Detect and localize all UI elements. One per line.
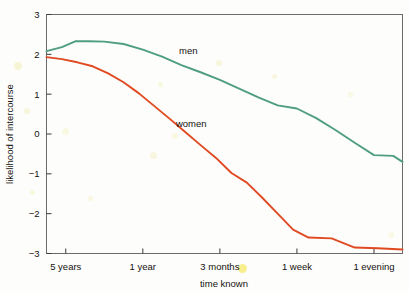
x-tick-label: 5 years <box>50 261 81 272</box>
series-line-men <box>47 41 403 162</box>
annotation-layer: menwomen <box>175 45 207 129</box>
x-tick-label: 3 months <box>200 261 239 272</box>
x-axis: 5 years1 year3 months1 week1 evening <box>50 249 394 272</box>
series-annotation-men: men <box>179 45 197 56</box>
series-line-women <box>47 57 403 249</box>
plot-frame <box>47 15 403 254</box>
y-tick-label: 3 <box>34 9 39 20</box>
chart-root: 3210−1−2−3 5 years1 year3 months1 week1 … <box>0 0 409 293</box>
y-tick-label: 0 <box>34 128 39 139</box>
series-layer <box>47 41 403 249</box>
line-chart: 3210−1−2−3 5 years1 year3 months1 week1 … <box>0 0 409 293</box>
x-tick-label: 1 year <box>130 261 156 272</box>
y-tick-label: 1 <box>34 89 39 100</box>
x-tick-label: 1 week <box>282 261 312 272</box>
y-tick-label: −1 <box>29 168 40 179</box>
y-tick-label: −3 <box>29 248 40 259</box>
y-tick-label: −2 <box>29 208 40 219</box>
x-tick-label: 1 evening <box>353 261 394 272</box>
x-axis-title: time known <box>200 278 248 289</box>
y-tick-label: 2 <box>34 49 39 60</box>
y-axis-title: likelihood of intercourse <box>4 84 15 184</box>
series-annotation-women: women <box>175 118 207 129</box>
y-axis: 3210−1−2−3 <box>29 9 52 259</box>
